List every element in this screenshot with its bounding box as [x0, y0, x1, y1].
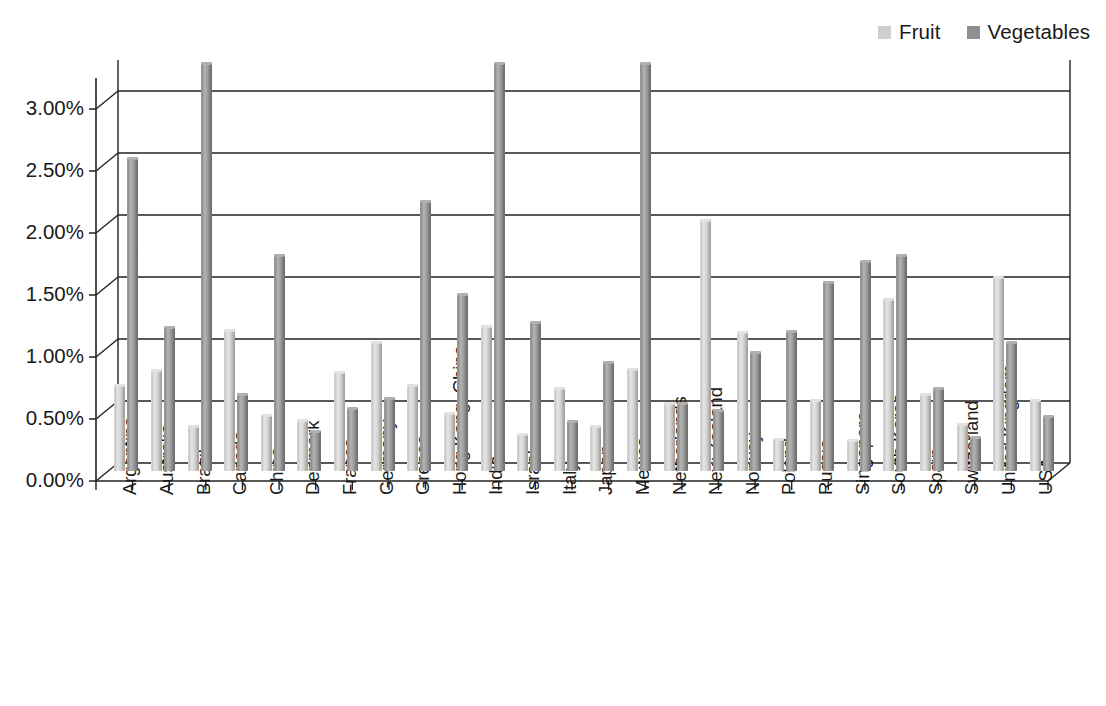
- bar-body: [970, 436, 981, 471]
- bar-body: [786, 330, 797, 471]
- y-axis-tick-label: 2.50%: [26, 160, 84, 181]
- bar-body: [274, 254, 285, 471]
- bar-body: [371, 341, 382, 471]
- bar-top-cap: [371, 341, 382, 344]
- bar-top-cap: [127, 157, 138, 160]
- bar-top-cap: [481, 325, 492, 328]
- bar-top-cap: [1030, 399, 1041, 402]
- bar-top-cap: [224, 329, 235, 332]
- bar-body: [933, 387, 944, 471]
- bar-fruit: [114, 384, 125, 471]
- bar-body: [567, 420, 578, 471]
- bar-vegetables: [713, 409, 724, 471]
- bar-fruit: [261, 414, 272, 471]
- bar-top-cap: [384, 397, 395, 400]
- bar-fruit: [627, 368, 638, 471]
- bar-body: [444, 412, 455, 472]
- bar-top-cap: [297, 419, 308, 422]
- bar-top-cap: [750, 351, 761, 354]
- bar-top-cap: [151, 369, 162, 372]
- bar-top-cap: [494, 62, 505, 65]
- bar-top-cap: [640, 62, 651, 65]
- bar-body: [481, 325, 492, 471]
- bar-body: [530, 321, 541, 471]
- bar-body: [640, 62, 651, 471]
- bar-body: [457, 293, 468, 472]
- bar-chart: 0.00%0.50%1.00%1.50%2.00%2.50%3.00% Arge…: [0, 0, 1106, 706]
- bar-vegetables: [933, 387, 944, 471]
- bar-top-cap: [457, 293, 468, 296]
- bar-body: [517, 433, 528, 471]
- bar-vegetables: [823, 281, 834, 471]
- bar-top-cap: [567, 420, 578, 423]
- bar-fruit: [700, 219, 711, 471]
- bar-top-cap: [847, 439, 858, 442]
- bar-vegetables: [1006, 341, 1017, 471]
- bar-top-cap: [823, 281, 834, 284]
- bar-top-cap: [700, 219, 711, 222]
- bar-top-cap: [420, 200, 431, 203]
- bar-top-cap: [347, 407, 358, 410]
- bar-fruit: [334, 371, 345, 471]
- bar-fruit: [407, 384, 418, 471]
- y-axis-tick-label: 1.00%: [26, 346, 84, 367]
- bar-body: [627, 368, 638, 471]
- bar-body: [677, 402, 688, 471]
- bar-body: [1043, 415, 1054, 471]
- bar-body: [664, 402, 675, 471]
- bar-top-cap: [603, 361, 614, 364]
- bar-vegetables: [201, 62, 212, 471]
- bar-top-cap: [737, 331, 748, 334]
- bar-body: [297, 419, 308, 471]
- bar-fruit: [371, 341, 382, 471]
- bar-body: [700, 219, 711, 471]
- bar-body: [188, 425, 199, 471]
- bar-body: [883, 298, 894, 472]
- bar-top-cap: [713, 409, 724, 412]
- bar-vegetables: [1043, 415, 1054, 471]
- bar-top-cap: [993, 276, 1004, 279]
- bar-body: [127, 157, 138, 471]
- bar-top-cap: [261, 414, 272, 417]
- bar-fruit: [1030, 399, 1041, 471]
- bar-body: [957, 423, 968, 471]
- bar-body: [347, 407, 358, 471]
- y-axis-tick-label: 0.50%: [26, 408, 84, 429]
- bar-top-cap: [1006, 341, 1017, 344]
- bar-fruit: [993, 276, 1004, 471]
- bar-vegetables: [677, 402, 688, 471]
- bar-vegetables: [970, 436, 981, 471]
- bar-top-cap: [1043, 415, 1054, 418]
- bar-top-cap: [310, 430, 321, 433]
- bar-body: [201, 62, 212, 471]
- bar-fruit: [590, 425, 601, 471]
- bar-body: [261, 414, 272, 471]
- bar-top-cap: [530, 321, 541, 324]
- bar-fruit: [773, 438, 784, 471]
- bar-vegetables: [603, 361, 614, 471]
- bar-body: [993, 276, 1004, 471]
- bar-top-cap: [920, 393, 931, 396]
- bar-body: [114, 384, 125, 471]
- bar-top-cap: [517, 433, 528, 436]
- bar-top-cap: [164, 326, 175, 329]
- bar-fruit: [920, 393, 931, 471]
- bar-top-cap: [970, 436, 981, 439]
- bar-top-cap: [860, 260, 871, 263]
- bar-top-cap: [334, 371, 345, 374]
- bar-body: [310, 430, 321, 471]
- bar-vegetables: [310, 430, 321, 471]
- bar-body: [334, 371, 345, 471]
- bar-body: [713, 409, 724, 471]
- bar-body: [554, 387, 565, 471]
- bar-vegetables: [530, 321, 541, 471]
- bar-top-cap: [786, 330, 797, 333]
- bar-body: [920, 393, 931, 471]
- bar-top-cap: [810, 399, 821, 402]
- bar-fruit: [188, 425, 199, 471]
- bar-top-cap: [664, 402, 675, 405]
- bar-top-cap: [957, 423, 968, 426]
- bar-body: [590, 425, 601, 471]
- bar-top-cap: [590, 425, 601, 428]
- bar-top-cap: [627, 368, 638, 371]
